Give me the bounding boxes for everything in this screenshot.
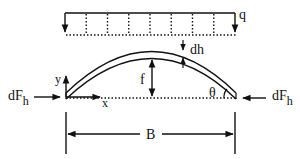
rise-label-f: f [140,72,145,87]
load-interior-lines [86,14,214,34]
distributed-load: q [65,7,246,35]
thickness-label-dh: dh [190,42,204,57]
arch-diagram: q y x f dh θ dFh dFh B [0,0,300,159]
right-force-label: dFh [272,88,293,108]
angle-label-theta: θ [209,85,216,100]
span-label-B: B [146,127,155,142]
left-force-label: dFh [8,88,29,108]
load-label-q: q [239,7,246,22]
y-axis-label: y [55,72,61,86]
angle-arc [224,89,227,98]
x-axis-label: x [102,96,108,110]
